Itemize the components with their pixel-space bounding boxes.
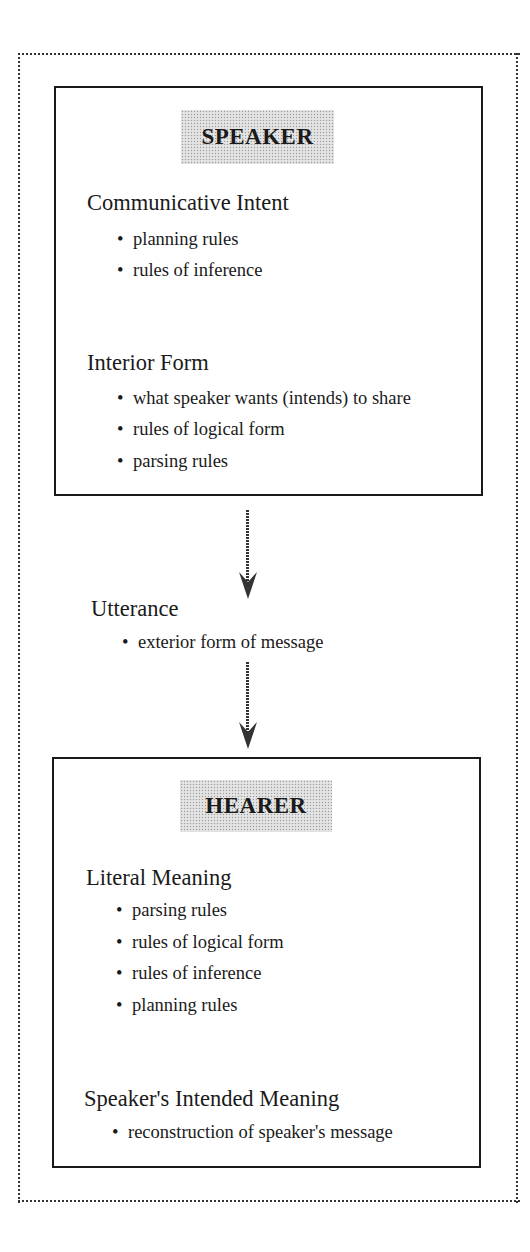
- bullet-text: rules of inference: [133, 260, 262, 280]
- bullet-icon: •: [117, 419, 133, 440]
- bullet-icon: •: [117, 451, 133, 472]
- bullet-item: •reconstruction of speaker's message: [112, 1122, 393, 1143]
- hearer-title-label: HEARER: [180, 780, 332, 832]
- outer-border-right: [515, 52, 520, 1204]
- bullet-text: rules of inference: [132, 963, 261, 983]
- bullet-item: •planning rules: [116, 995, 237, 1016]
- outer-border-left: [17, 52, 22, 1204]
- bullet-item: •parsing rules: [116, 900, 227, 921]
- bullet-item: •planning rules: [117, 229, 238, 250]
- section-heading-literal-meaning: Literal Meaning: [86, 865, 232, 891]
- speaker-title-label: SPEAKER: [181, 110, 334, 164]
- bullet-icon: •: [116, 963, 132, 984]
- bullet-text: rules of logical form: [132, 932, 284, 952]
- outer-border-top: [17, 52, 520, 57]
- arrow-down-icon: [238, 662, 258, 750]
- bullet-icon: •: [116, 995, 132, 1016]
- bullet-item: •rules of logical form: [116, 932, 284, 953]
- outer-border-bottom: [17, 1199, 520, 1204]
- bullet-icon: •: [122, 632, 138, 653]
- arrow-down-icon: [238, 510, 258, 600]
- bullet-icon: •: [117, 229, 133, 250]
- bullet-item: •rules of inference: [116, 963, 261, 984]
- bullet-icon: •: [112, 1122, 128, 1143]
- bullet-icon: •: [116, 900, 132, 921]
- bullet-item: •exterior form of message: [122, 632, 323, 653]
- bullet-item: •rules of inference: [117, 260, 262, 281]
- bullet-icon: •: [116, 932, 132, 953]
- bullet-icon: •: [117, 260, 133, 281]
- bullet-text: rules of logical form: [133, 419, 285, 439]
- utterance-heading: Utterance: [91, 596, 178, 622]
- bullet-text: what speaker wants (intends) to share: [133, 388, 411, 408]
- speaker-title: SPEAKER: [201, 124, 313, 150]
- bullet-item: •what speaker wants (intends) to share: [117, 388, 411, 409]
- section-heading-interior-form: Interior Form: [87, 350, 209, 376]
- section-heading-communicative-intent: Communicative Intent: [87, 190, 289, 216]
- bullet-text: parsing rules: [133, 451, 228, 471]
- bullet-item: •rules of logical form: [117, 419, 285, 440]
- hearer-title: HEARER: [205, 793, 306, 819]
- bullet-text: reconstruction of speaker's message: [128, 1122, 393, 1142]
- bullet-text: planning rules: [133, 229, 238, 249]
- bullet-item: •parsing rules: [117, 451, 228, 472]
- section-heading-speakers-intended-meaning: Speaker's Intended Meaning: [84, 1086, 339, 1112]
- bullet-text: planning rules: [132, 995, 237, 1015]
- bullet-text: exterior form of message: [138, 632, 323, 652]
- bullet-icon: •: [117, 388, 133, 409]
- bullet-text: parsing rules: [132, 900, 227, 920]
